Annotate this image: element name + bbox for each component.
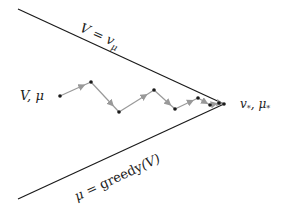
iteration-point [217,101,221,105]
iteration-arrow [119,94,147,112]
iteration-arrow [91,82,113,106]
iteration-arrow [154,90,171,105]
iteration-point [208,103,212,107]
start-label: V, μ [20,88,44,103]
iteration-point [222,102,226,106]
iteration-point [152,88,156,92]
iteration-point [117,110,121,114]
end-label: v*, μ* [240,97,270,113]
iteration-point [196,96,200,100]
iteration-arrow [175,100,193,109]
iteration-point [173,107,177,111]
iteration-point [89,80,93,84]
iteration-arrow [60,85,85,96]
diagram: V = vμ V, μ v*, μ* μ = greedy(V) [0,0,293,214]
lower-boundary-line [18,104,224,199]
upper-boundary-line [18,9,224,104]
iteration-point [58,94,62,98]
